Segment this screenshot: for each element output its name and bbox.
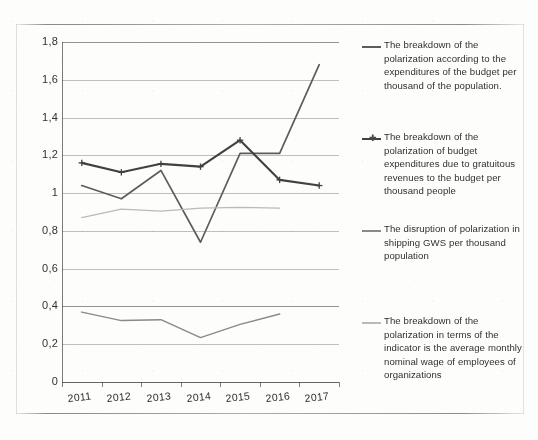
x-tick-label: 2017 <box>304 389 330 404</box>
legend-item-label: The breakdown of the polarization of bud… <box>384 130 530 198</box>
legend-line-icon <box>362 225 382 237</box>
legend-item-label: The disruption of polarization in shippi… <box>384 222 530 263</box>
series-line <box>82 140 319 185</box>
data-point-marker <box>158 161 164 167</box>
plot-area <box>62 42 339 382</box>
y-axis: 1,8 1,6 1,4 1,2 1 0,8 0,6 0,4 0,2 0 <box>20 24 58 414</box>
legend-item-label: The breakdown of the polarization in ter… <box>384 314 530 382</box>
legend-line-cross-marker-icon: ✚ <box>362 133 382 145</box>
legend-item[interactable]: The breakdown of the polarization accord… <box>362 38 530 92</box>
x-tick-label: 2014 <box>186 389 212 404</box>
y-tick-label: 0,8 <box>24 224 58 236</box>
x-tick-label: 2013 <box>146 389 172 404</box>
x-tick-mark <box>339 382 340 387</box>
x-tick-label: 2015 <box>225 389 251 404</box>
legend-line-icon <box>362 41 382 53</box>
data-point-marker <box>79 160 85 166</box>
y-tick-label: 1,6 <box>24 73 58 85</box>
x-tick-label: 2011 <box>67 390 92 404</box>
y-tick-label: 0,4 <box>24 299 58 311</box>
series-line <box>82 65 319 243</box>
y-tick-label: 0 <box>24 375 58 387</box>
y-tick-label: 1,2 <box>24 148 58 160</box>
data-point-marker <box>316 182 322 188</box>
y-tick-label: 0,6 <box>24 262 58 274</box>
legend-item[interactable]: ✚ The breakdown of the polarization of b… <box>362 130 530 198</box>
series-line <box>82 312 280 338</box>
series-line <box>82 207 280 217</box>
legend-item[interactable]: The disruption of polarization in shippi… <box>362 222 530 263</box>
y-tick-label: 0,2 <box>24 337 58 349</box>
x-tick-label: 2012 <box>106 389 132 404</box>
y-tick-label: 1,8 <box>24 35 58 47</box>
y-tick-label: 1,4 <box>24 111 58 123</box>
legend-line-icon <box>362 317 382 329</box>
y-tick-label: 1 <box>24 186 58 198</box>
data-point-marker <box>118 169 124 175</box>
line-chart: 1,8 1,6 1,4 1,2 1 0,8 0,6 0,4 0,2 0 2011… <box>0 24 360 414</box>
legend-item[interactable]: The breakdown of the polarization in ter… <box>362 314 530 382</box>
chart-legend: The breakdown of the polarization accord… <box>362 24 532 414</box>
x-tick-label: 2016 <box>265 389 291 404</box>
series-lines <box>62 42 339 383</box>
x-axis: 2011 2012 2013 2014 2015 2016 2017 <box>62 386 339 416</box>
legend-item-label: The breakdown of the polarization accord… <box>384 38 530 92</box>
